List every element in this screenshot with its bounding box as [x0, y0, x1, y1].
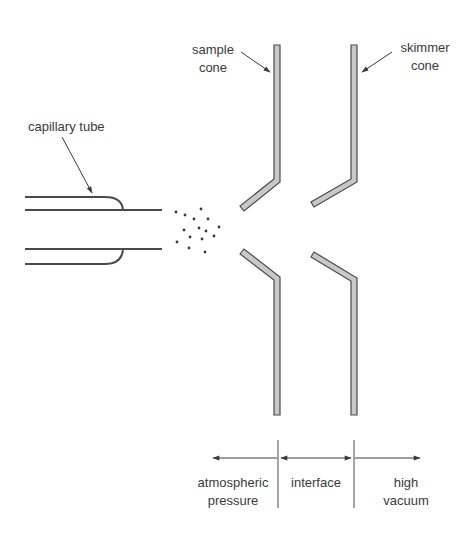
capillary-tube: [25, 197, 162, 264]
icp-ms-interface-diagram: capillary tube sample cone skimmer cone …: [0, 0, 472, 542]
sample-cone: [240, 45, 280, 415]
sample-cone-lower: [240, 249, 280, 415]
skimmer-cone: [311, 45, 357, 415]
aerosol-spray: [175, 208, 221, 254]
sample-cone-label-line2: cone: [199, 60, 227, 75]
skimmer-cone-upper: [311, 45, 357, 207]
capillary-tube-label: capillary tube: [28, 119, 105, 134]
sample-cone-upper: [240, 45, 280, 211]
skimmer-cone-lower: [311, 252, 357, 415]
capillary-upper-outer-wall: [25, 197, 123, 210]
skimmer-cone-label-line2: cone: [411, 58, 439, 73]
region-atmospheric-pressure-line2: pressure: [208, 493, 259, 508]
sample-cone-label-line1: sample: [192, 42, 234, 57]
region-high-vacuum-line2: vacuum: [383, 493, 429, 508]
skimmer-cone-pointer: [362, 52, 392, 72]
region-interface: interface: [291, 475, 341, 490]
capillary-tube-pointer: [62, 137, 92, 193]
region-high-vacuum-line1: high: [394, 475, 419, 490]
capillary-lower-outer-wall: [25, 249, 123, 264]
skimmer-cone-label-line1: skimmer: [400, 40, 450, 55]
region-atmospheric-pressure-line1: atmospheric: [198, 475, 269, 490]
sample-cone-pointer: [241, 52, 270, 72]
